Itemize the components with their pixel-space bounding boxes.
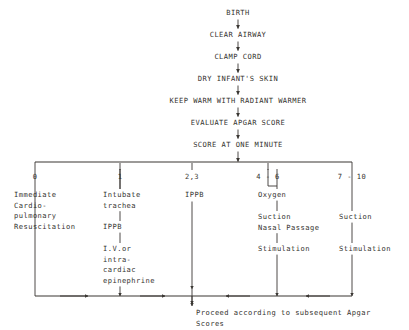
- scale-tick-4-6: 4 - 6: [256, 172, 280, 183]
- apgar-resuscitation-flowchart: BIRTHCLEAR AIRWAYCLAMP CORDDRY INFANT'S …: [0, 0, 409, 330]
- flowchart-connectors: [0, 0, 409, 330]
- sequence-step-2: CLAMP CORD: [214, 52, 261, 63]
- scale-tick-1: 1: [118, 172, 123, 183]
- sequence-step-6: SCORE AT ONE MINUTE: [193, 140, 283, 151]
- treatment-score-1-block-1: IPPB: [103, 222, 122, 233]
- treatment-score-7-10-block-1: Stimulation: [339, 244, 391, 255]
- sequence-step-3: DRY INFANT'S SKIN: [198, 74, 278, 85]
- treatment-score-0-block-0: Immediate Cardio- pulmonary Resuscitatio…: [14, 190, 75, 232]
- scale-tick-2-3: 2,3: [185, 172, 199, 183]
- treatment-score-4-6-block-1: Suction Nasal Passage: [258, 212, 319, 233]
- treatment-score-2-3-block-0: IPPB: [185, 190, 204, 201]
- sequence-step-1: CLEAR AIRWAY: [210, 30, 267, 41]
- sequence-step-5: EVALUATE APGAR SCORE: [191, 118, 285, 129]
- treatment-score-7-10-block-0: Suction: [339, 212, 372, 223]
- sequence-step-0: BIRTH: [226, 8, 250, 19]
- sequence-step-4: KEEP WARM WITH RADIANT WARMER: [170, 96, 307, 107]
- outcome-label: Proceed according to subsequent Apgar Sc…: [196, 308, 371, 329]
- scale-tick-0: 0: [33, 172, 38, 183]
- scale-tick-7-10: 7 - 10: [338, 172, 366, 183]
- treatment-score-1-block-0: Intubate trachea: [103, 190, 141, 211]
- treatment-score-4-6-block-0: Oxygen: [258, 190, 286, 201]
- treatment-score-4-6-block-2: Stimulation: [258, 244, 310, 255]
- treatment-score-1-block-2: I.V.or intra- cardiac epinephrine: [103, 244, 155, 286]
